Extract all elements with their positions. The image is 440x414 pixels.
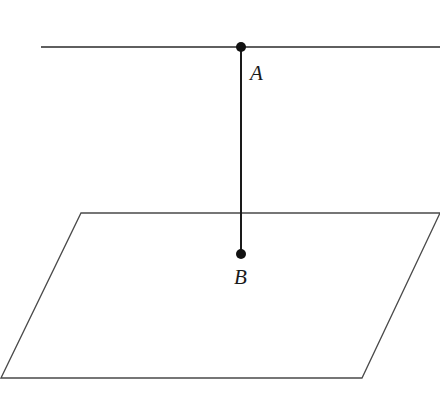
point-b-label: B [234, 265, 247, 289]
point-a-label: A [248, 61, 263, 85]
point-b-dot [236, 249, 246, 259]
geometry-diagram: A B [0, 0, 440, 414]
plane-parallelogram [1, 213, 440, 378]
point-a-dot [236, 42, 246, 52]
